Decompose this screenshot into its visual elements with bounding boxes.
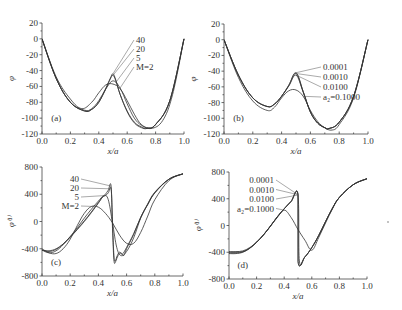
- y-tick-label: -40: [26, 66, 38, 76]
- y-tick-label: 400: [25, 189, 39, 199]
- x-tick-label: 0.4: [93, 278, 105, 288]
- legend-leader-line: [81, 179, 111, 186]
- x-tick-label: 0.4: [93, 136, 105, 146]
- y-tick-label: 0: [34, 217, 39, 227]
- y-tick-label: -20: [26, 50, 38, 60]
- series-line-20: [42, 174, 183, 261]
- series-group: [42, 39, 184, 129]
- stray-mark: [387, 221, 389, 223]
- y-axis-ticks: 8004000-400-800: [209, 167, 230, 284]
- x-axis-title: x/a: [106, 288, 118, 298]
- legend: 40205M=2: [61, 174, 111, 211]
- panel-label: (a): [51, 113, 61, 123]
- y-tick-label: 0: [216, 35, 221, 45]
- x-tick-label: 0.2: [247, 136, 258, 146]
- x-tick-label: 0.6: [122, 136, 134, 146]
- y-tick-label: 0: [34, 34, 39, 44]
- panel-b: 200-20-40-60-80-100-1200.00.20.40.60.81.…: [188, 19, 374, 156]
- y-axis-title: φ: [6, 76, 16, 81]
- legend-leader-line: [276, 190, 298, 195]
- x-tick-label: 0.8: [334, 281, 346, 291]
- legend-leader-line: [81, 188, 111, 189]
- x-tick-label: 0.0: [218, 136, 230, 146]
- panel-a: 200-20-40-60-80-100-1200.00.20.40.60.81.…: [6, 18, 190, 156]
- series-group: [42, 174, 183, 264]
- y-tick-label: -400: [22, 244, 39, 254]
- legend-label-0.0100: 0.0100: [323, 82, 348, 92]
- legend-label-0.0010: 0.0010: [323, 72, 348, 82]
- legend-leader-line: [303, 96, 321, 97]
- legend-label-0.0001: 0.0001: [249, 175, 274, 185]
- panel-d: 8004000-400-8000.00.20.40.60.81.0x/aφ⁽¹⁾…: [193, 167, 373, 301]
- x-tick-label: 0.8: [149, 278, 161, 288]
- y-axis-title: φ: [188, 76, 198, 81]
- x-tick-label: 0.8: [334, 136, 346, 146]
- legend-leader-line: [296, 67, 321, 73]
- legend-label-0.0100: 0.0100: [249, 194, 274, 204]
- x-tick-label: 0.0: [36, 136, 48, 146]
- y-tick-label: -400: [209, 247, 226, 257]
- x-tick-label: 0.4: [279, 281, 291, 291]
- panel-label: (c): [51, 257, 61, 267]
- panel-label: (d): [238, 260, 249, 270]
- legend-label-0.0010: 0.0010: [249, 185, 274, 195]
- series-line-5: [42, 39, 184, 128]
- y-tick-label: 20: [211, 19, 221, 29]
- legend-label-a2=0.1000: a₂=0.1000: [237, 204, 274, 214]
- x-tick-label: 0.8: [150, 136, 162, 146]
- x-tick-label: 1.0: [178, 136, 190, 146]
- legend-leader-line: [276, 209, 284, 211]
- x-tick-label: 0.0: [36, 278, 48, 288]
- panel-label: (b): [233, 113, 244, 123]
- legend-leader-line: [120, 67, 134, 88]
- y-axis-title: φ⁽¹⁾: [193, 219, 203, 232]
- x-tick-label: 0.2: [65, 278, 76, 288]
- x-tick-label: 0.2: [251, 281, 262, 291]
- x-tick-label: 1.0: [362, 136, 374, 146]
- x-axis-title: x/a: [292, 291, 304, 301]
- x-tick-label: 0.6: [306, 281, 318, 291]
- y-tick-label: -40: [208, 66, 220, 76]
- x-tick-label: 0.6: [121, 278, 133, 288]
- y-tick-label: -80: [26, 97, 38, 107]
- legend: 0.00010.00100.0100a₂=0.1000: [296, 62, 360, 102]
- legend-leader-line: [113, 40, 134, 74]
- x-axis-title: x/a: [290, 146, 302, 156]
- y-tick-label: 800: [212, 167, 226, 177]
- legend: 0.00010.00100.0100a₂=0.1000: [237, 175, 298, 214]
- legend-label-0.0001: 0.0001: [323, 62, 348, 72]
- x-tick-label: 0.2: [65, 136, 76, 146]
- legend-leader-line: [296, 74, 321, 78]
- figure: 200-20-40-60-80-100-1200.00.20.40.60.81.…: [0, 0, 402, 310]
- axes: [42, 23, 184, 134]
- y-axis-title: φ⁽¹⁾: [6, 215, 16, 228]
- y-axis-ticks: 8004000-400-800: [22, 162, 43, 281]
- y-tick-label: 20: [29, 18, 39, 28]
- legend-leader-line: [276, 195, 298, 199]
- legend-leader-line: [81, 196, 104, 197]
- x-tick-label: 0.6: [305, 136, 317, 146]
- y-tick-label: -80: [208, 98, 220, 108]
- y-tick-label: -100: [22, 113, 39, 123]
- y-tick-label: -20: [208, 50, 220, 60]
- legend-label-M=2: M=2: [61, 201, 79, 211]
- legend-label-a2=0.1000: a₂=0.1000: [323, 92, 360, 102]
- y-tick-label: 400: [212, 194, 226, 204]
- y-tick-label: 800: [25, 162, 39, 172]
- x-axis-title: x/a: [107, 146, 119, 156]
- y-axis-ticks: 200-20-40-60-80-100-120: [22, 18, 43, 139]
- y-tick-label: 0: [221, 221, 226, 231]
- y-tick-label: -60: [26, 81, 38, 91]
- legend: 40205M=2: [113, 35, 154, 88]
- x-tick-label: 1.0: [177, 278, 189, 288]
- panel-c: 8004000-400-8000.00.20.40.60.81.0x/aφ⁽¹⁾…: [6, 162, 189, 298]
- x-tick-label: 0.0: [223, 281, 235, 291]
- y-axis-ticks: 200-20-40-60-80-100-120: [204, 19, 225, 139]
- legend-label-M=2: M=2: [136, 62, 154, 72]
- legend-leader-line: [276, 180, 298, 195]
- legend-leader-line: [116, 58, 134, 82]
- y-tick-label: -100: [204, 113, 221, 123]
- x-tick-label: 0.4: [276, 136, 288, 146]
- y-tick-label: -60: [208, 82, 220, 92]
- x-tick-label: 1.0: [361, 281, 373, 291]
